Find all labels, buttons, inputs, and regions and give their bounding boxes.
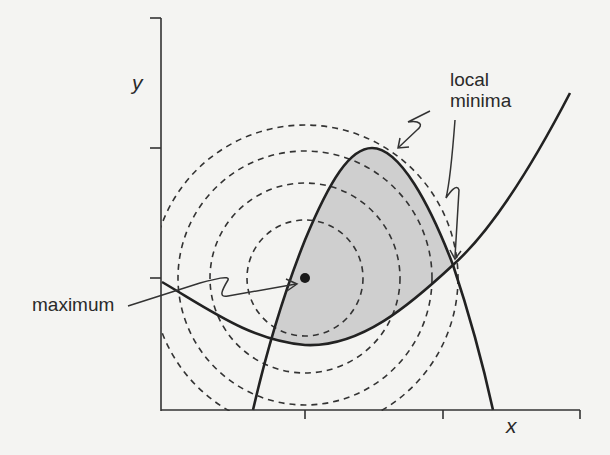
diagram-canvas: [0, 0, 610, 455]
local-minima-label-line2: minima: [450, 90, 511, 112]
feasible-region: [162, 0, 570, 345]
y-axis-label: y: [132, 72, 143, 94]
local-minima-label-line1: local: [450, 69, 489, 91]
local-minima-arrow-peak: [398, 111, 430, 148]
maximum-label: maximum: [32, 294, 114, 316]
x-axis-label: x: [506, 415, 517, 437]
local-minima-arrow-intersection: [446, 120, 461, 259]
maximum-point: [300, 273, 310, 283]
